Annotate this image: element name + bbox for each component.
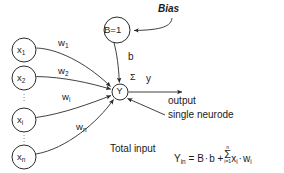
formula-expression: Yin = B·b +nΣi=1xi·wi <box>174 144 252 164</box>
formula-term2-x-sub: i <box>236 158 237 165</box>
output-label: output <box>168 96 196 106</box>
connection-x2-to-neuron <box>36 77 111 90</box>
weight-label-wn: wn <box>76 122 87 132</box>
input-node-xn-label: xn <box>17 152 25 162</box>
formula-sigma-stack: nΣi=1 <box>224 145 231 164</box>
sigma-lower-limit: i=1 <box>224 159 231 164</box>
formula-lhs: Y <box>174 153 181 164</box>
neurode-label: single neurode <box>168 110 234 120</box>
input-node-xi-label: xi <box>17 115 23 125</box>
bias-weight-label: b <box>128 52 134 62</box>
formula-caption: Total input <box>110 144 156 154</box>
neurode-leader-line <box>139 104 165 116</box>
weight-label-wi: wi <box>62 92 70 102</box>
formula-equals: = <box>189 153 195 164</box>
bias-annotation-leader <box>134 18 172 31</box>
connection-xn-to-neuron <box>36 100 114 155</box>
formula-plus: + <box>218 153 224 164</box>
formula-dot2: · <box>239 153 242 164</box>
bias-annotation-label: Bias <box>158 4 179 14</box>
ellipsis-lower: ... <box>21 132 27 141</box>
connection-bias-to-neuron <box>114 43 119 83</box>
bias-node-label: B=1 <box>104 25 121 35</box>
output-signal-label: y <box>146 74 151 84</box>
ellipsis-upper: ... <box>21 91 27 100</box>
weight-label-w2: w2 <box>58 66 69 76</box>
summation-symbol: Σ <box>130 73 136 82</box>
neurode-leader-arrow <box>128 99 140 104</box>
connection-xi-to-neuron <box>36 96 111 118</box>
weight-label-w1: w1 <box>58 38 69 48</box>
formula-term1-b: b <box>209 153 215 164</box>
formula-lhs-sub: in <box>181 158 186 165</box>
formula-term2-w-sub: i <box>250 158 251 165</box>
input-node-x2-label: x2 <box>17 73 25 83</box>
formula-term1-B: B <box>197 153 204 164</box>
formula-dot1: · <box>205 153 208 164</box>
neuron-node-label: Y <box>117 87 123 96</box>
input-node-x1-label: x1 <box>17 45 25 55</box>
connection-x1-to-neuron <box>36 48 110 87</box>
diagram-canvas: x1 x2 xi xn ... ... B=1 Y w1 w2 wi wn b … <box>0 0 284 174</box>
